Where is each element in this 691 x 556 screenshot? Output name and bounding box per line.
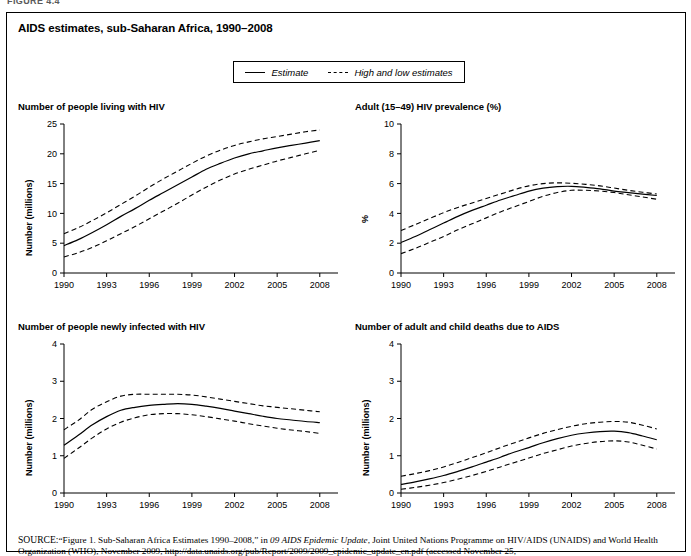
svg-text:1999: 1999 xyxy=(519,500,539,510)
svg-text:1993: 1993 xyxy=(97,280,117,290)
svg-text:1990: 1990 xyxy=(391,280,411,290)
chart-svg-2: 012341990199319961999200220052008 xyxy=(18,334,348,519)
figure-container: AIDS estimates, sub-Saharan Africa, 1990… xyxy=(6,12,686,552)
svg-text:2005: 2005 xyxy=(604,280,624,290)
svg-text:1999: 1999 xyxy=(182,500,202,510)
svg-text:1: 1 xyxy=(389,451,394,461)
svg-text:3: 3 xyxy=(52,376,57,386)
svg-text:1: 1 xyxy=(52,451,57,461)
legend-label-high-low: High and low estimates xyxy=(354,67,452,78)
y-axis-label-0: Number (millions) xyxy=(24,179,34,256)
svg-text:1999: 1999 xyxy=(519,280,539,290)
figure-root: FIGURE 4.4 AIDS estimates, sub-Saharan A… xyxy=(0,0,691,556)
chart-svg-3: 012341990199319961999200220052008 xyxy=(355,334,685,519)
plot-area-1: 02468101990199319961999200220052008 xyxy=(355,114,685,303)
svg-text:2005: 2005 xyxy=(267,280,287,290)
svg-text:8: 8 xyxy=(389,149,394,159)
svg-text:2008: 2008 xyxy=(647,280,667,290)
figure-number-cutoff: FIGURE 4.4 xyxy=(7,0,60,4)
source-line1-b: , Joint United Nations Programme on HIV/… xyxy=(368,535,591,545)
svg-text:2: 2 xyxy=(389,238,394,248)
source-line1-italic: 09 AIDS Epidemic Update xyxy=(270,535,368,545)
panel-title-2: Number of people newly infected with HIV xyxy=(18,321,205,332)
source-line1-a: “Figure 1. Sub-Saharan Africa Estimates … xyxy=(59,535,271,545)
svg-text:10: 10 xyxy=(384,119,394,129)
svg-text:4: 4 xyxy=(52,339,57,349)
svg-text:0: 0 xyxy=(52,488,57,498)
svg-text:2008: 2008 xyxy=(647,500,667,510)
svg-text:1993: 1993 xyxy=(97,500,117,510)
svg-text:0: 0 xyxy=(389,488,394,498)
panel-adult-hiv-prevalence: Adult (15–49) HIV prevalence (%) 0246810… xyxy=(355,101,685,301)
svg-text:1996: 1996 xyxy=(139,280,159,290)
dashed-line-swatch-icon xyxy=(328,72,348,73)
figure-title: AIDS estimates, sub-Saharan Africa, 1990… xyxy=(18,22,273,34)
source-prefix: SOURCE: xyxy=(18,534,59,545)
svg-text:3: 3 xyxy=(389,376,394,386)
svg-text:0: 0 xyxy=(389,268,394,278)
svg-text:2002: 2002 xyxy=(562,280,582,290)
svg-text:2002: 2002 xyxy=(562,500,582,510)
svg-text:1996: 1996 xyxy=(476,280,496,290)
svg-text:2: 2 xyxy=(389,414,394,424)
svg-text:10: 10 xyxy=(47,209,57,219)
svg-text:20: 20 xyxy=(47,149,57,159)
svg-text:4: 4 xyxy=(389,209,394,219)
source-note: SOURCE:“Figure 1. Sub-Saharan Africa Est… xyxy=(18,535,678,556)
legend-item-high-low: High and low estimates xyxy=(328,67,452,78)
panel-title-0: Number of people living with HIV xyxy=(18,101,165,112)
svg-text:2008: 2008 xyxy=(310,500,330,510)
svg-text:1990: 1990 xyxy=(54,280,74,290)
panel-people-living-with-hiv: Number of people living with HIV 0510152… xyxy=(18,101,348,301)
chart-legend: Estimate High and low estimates xyxy=(233,61,465,83)
svg-text:15: 15 xyxy=(47,179,57,189)
y-axis-label-3: Number (millions) xyxy=(361,399,371,476)
y-axis-label-2: Number (millions) xyxy=(24,399,34,476)
svg-text:2002: 2002 xyxy=(225,500,245,510)
solid-line-swatch-icon xyxy=(245,72,265,73)
legend-item-estimate: Estimate xyxy=(245,67,308,78)
svg-text:4: 4 xyxy=(389,339,394,349)
plot-area-0: 05101520251990199319961999200220052008 xyxy=(18,114,348,303)
panel-title-1: Adult (15–49) HIV prevalence (%) xyxy=(355,101,501,112)
svg-text:1993: 1993 xyxy=(434,500,454,510)
chart-svg-1: 02468101990199319961999200220052008 xyxy=(355,114,685,299)
svg-text:6: 6 xyxy=(389,179,394,189)
svg-text:1990: 1990 xyxy=(54,500,74,510)
svg-text:2002: 2002 xyxy=(225,280,245,290)
svg-text:0: 0 xyxy=(52,268,57,278)
chart-svg-0: 05101520251990199319961999200220052008 xyxy=(18,114,348,299)
svg-text:2005: 2005 xyxy=(267,500,287,510)
svg-text:1993: 1993 xyxy=(434,280,454,290)
svg-text:1996: 1996 xyxy=(476,500,496,510)
plot-area-3: 012341990199319961999200220052008 xyxy=(355,334,685,523)
svg-text:1990: 1990 xyxy=(391,500,411,510)
panel-newly-infected-with-hiv: Number of people newly infected with HIV… xyxy=(18,321,348,521)
panel-adult-and-child-deaths: Number of adult and child deaths due to … xyxy=(355,321,685,521)
svg-text:1996: 1996 xyxy=(139,500,159,510)
svg-text:2008: 2008 xyxy=(310,280,330,290)
plot-area-2: 012341990199319961999200220052008 xyxy=(18,334,348,523)
svg-text:2005: 2005 xyxy=(604,500,624,510)
panel-title-3: Number of adult and child deaths due to … xyxy=(355,321,559,332)
svg-text:25: 25 xyxy=(47,119,57,129)
svg-text:2: 2 xyxy=(52,414,57,424)
svg-text:1999: 1999 xyxy=(182,280,202,290)
legend-label-estimate: Estimate xyxy=(271,67,308,78)
y-axis-label-1: % xyxy=(360,215,370,223)
svg-text:5: 5 xyxy=(52,238,57,248)
